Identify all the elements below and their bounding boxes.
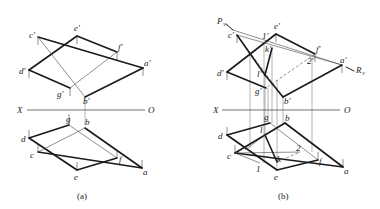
label-l: l: [260, 125, 263, 135]
label-b: b: [85, 117, 90, 127]
top-view-triangle: [38, 128, 142, 168]
label-d-prime: d': [217, 68, 225, 78]
projection-diagram: X O c' e' f' a' d' g': [0, 0, 380, 209]
label-e-prime: e': [274, 21, 281, 31]
plane-rv-trace: [346, 67, 354, 71]
panel-b: X O: [212, 16, 366, 201]
label-1: 1: [256, 164, 261, 174]
label-d: d: [218, 131, 223, 141]
top-view-parallelogram: [29, 125, 117, 170]
label-f: f: [119, 154, 123, 164]
panel-a: X O c' e' f' a' d' g': [16, 23, 155, 201]
label-g: g: [264, 112, 269, 122]
label-a-prime: a': [144, 58, 152, 68]
projection-lines: [250, 42, 312, 170]
label-d: d: [21, 134, 26, 144]
label-c: c: [30, 150, 34, 160]
label-r: R: [355, 65, 362, 75]
label-a-prime: a': [340, 55, 348, 65]
label-b-prime: b': [83, 96, 91, 106]
label-g-prime: g': [255, 86, 263, 96]
axis-x-label: X: [212, 105, 219, 115]
caption-a: (a): [77, 191, 87, 201]
plane-pv-line: [233, 30, 342, 65]
label-a: a: [143, 167, 148, 177]
label-e: e: [274, 172, 278, 182]
front-view-triangle: [237, 35, 342, 97]
label-f-prime: f': [316, 44, 322, 54]
label-e-prime: e': [74, 23, 81, 33]
label-a: a: [344, 166, 349, 176]
label-2: 2: [296, 143, 301, 153]
label-g: g: [66, 114, 71, 124]
front-view-ticks: [227, 34, 342, 80]
label-r-sub: V: [362, 71, 366, 76]
label-d-prime: d': [19, 66, 27, 76]
label-c-prime: c': [228, 30, 235, 40]
label-g-prime: g': [57, 89, 65, 99]
label-2-prime: 2': [307, 56, 315, 66]
caption-b: (b): [278, 191, 289, 201]
label-c-prime: c': [29, 30, 36, 40]
label-e: e: [74, 172, 78, 182]
front-view-parallelogram: [29, 36, 117, 88]
front-view-triangle: [38, 37, 143, 97]
label-c: c: [227, 151, 231, 161]
front-view-ticks: [29, 36, 143, 125]
aux-line-l-c: [245, 135, 265, 150]
axis-o-label: O: [344, 105, 351, 115]
label-b-prime: b': [284, 96, 292, 106]
aux-line-c-2: [235, 152, 300, 153]
label-p: P: [216, 16, 223, 26]
axis-x-label: X: [16, 105, 23, 115]
label-1-prime: 1': [262, 31, 270, 41]
label-b: b: [285, 113, 290, 123]
axis-o-label: O: [148, 105, 155, 115]
label-f-prime: f': [118, 42, 124, 52]
